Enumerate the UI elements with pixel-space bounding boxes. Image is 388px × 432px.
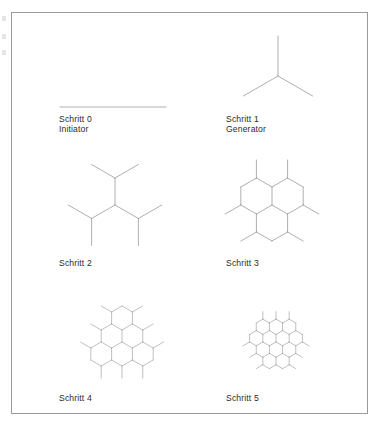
segment [92,205,115,219]
segment [269,319,276,323]
segment [288,232,304,241]
segment [296,353,303,357]
segment [289,353,296,357]
segment [256,205,272,214]
segment [112,342,122,348]
segment [256,365,263,369]
role-label: Generator [226,124,266,134]
role-label: Initiator [59,124,92,134]
segment [269,365,276,369]
label-schritt-2: Schritt 2 [59,258,92,268]
segment [302,342,309,346]
segment [241,232,257,241]
segment [288,178,304,187]
step-label: Schritt 2 [59,258,92,268]
segment [256,331,263,335]
segment [91,342,101,348]
segment [263,353,270,357]
segment [263,331,270,335]
figure-page: Schritt 0InitiatorSchritt 1GeneratorSchr… [0,0,388,432]
segment [241,178,257,187]
segment [101,360,111,366]
segment [256,319,263,323]
segment [250,331,257,335]
segment [250,342,257,346]
segment [132,306,142,312]
segment [132,360,142,366]
segment [276,342,283,346]
segment [122,342,132,348]
segment [256,353,263,357]
segment [272,178,288,187]
segment [272,205,288,214]
segment [269,342,276,346]
segment [122,360,132,366]
segment [256,232,272,241]
segment [283,319,290,323]
segment [91,324,101,330]
segment [143,342,153,348]
segment [289,365,296,369]
segment [276,365,283,369]
artwork-schritt-3 [225,160,319,241]
segment [243,76,278,96]
segment [283,353,290,357]
segment [101,342,111,348]
segment [101,324,111,330]
segment [303,205,319,214]
segment [263,365,270,369]
segment [122,306,132,312]
segment [296,331,303,335]
segment [241,205,257,214]
segment [278,76,313,96]
segment [288,205,304,214]
segment [153,342,163,348]
label-schritt-5: Schritt 5 [226,393,259,403]
segment [276,353,283,357]
segment [283,365,290,369]
step-label: Schritt 5 [226,393,259,403]
segment [283,342,290,346]
segment [269,331,276,335]
segment [143,324,153,330]
segment [101,306,111,312]
segment [112,324,122,330]
label-schritt-1: Schritt 1Generator [226,114,266,134]
label-schritt-3: Schritt 3 [226,258,259,268]
segment [225,205,241,214]
segment [68,205,91,219]
segment [296,342,303,346]
segment [92,165,115,179]
segment [276,319,283,323]
segment [289,342,296,346]
segment [289,319,296,323]
segment [112,306,122,312]
label-schritt-4: Schritt 4 [59,393,92,403]
segment [289,331,296,335]
segment [269,353,276,357]
artwork-schritt-1 [243,36,312,96]
artwork-schritt-2 [68,165,162,246]
segment [256,342,263,346]
step-label: Schritt 1 [226,114,266,124]
artwork-schritt-5 [243,312,309,369]
segment [250,353,257,357]
segment [276,331,283,335]
label-schritt-0: Schritt 0Initiator [59,114,92,134]
segment [243,342,250,346]
segment [91,360,101,366]
segment [256,178,272,187]
segment [112,360,122,366]
segment [80,342,90,348]
segment [138,205,161,219]
segment [132,324,142,330]
segment [272,232,288,241]
artwork-schritt-4 [80,306,163,378]
step-label: Schritt 0 [59,114,92,124]
step-label: Schritt 3 [226,258,259,268]
fractal-growth-diagram [0,0,388,432]
segment [263,342,270,346]
segment [115,165,138,179]
segment [263,319,270,323]
segment [122,324,132,330]
